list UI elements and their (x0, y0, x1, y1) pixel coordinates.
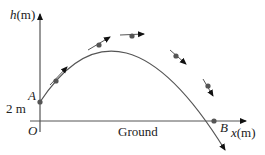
y-axis-label: h(m) (10, 8, 35, 21)
point-a-label: A (28, 89, 36, 102)
point-a (37, 99, 42, 104)
origin-label: O (28, 124, 37, 137)
trajectory-point (173, 53, 178, 58)
trajectory-point (129, 33, 134, 38)
ground-label: Ground (118, 125, 158, 138)
trajectory-point (96, 42, 101, 47)
start-height-label: 2 m (6, 102, 26, 115)
x-axis-label: x(m) (231, 126, 256, 139)
x-axis-unit: (m) (237, 125, 256, 140)
trajectory-point (53, 78, 58, 83)
trajectory-point (205, 83, 210, 88)
y-axis-unit: (m) (17, 7, 36, 22)
point-b-label: B (220, 121, 228, 134)
velocity-arrow-icon (50, 67, 67, 85)
point-b (211, 118, 216, 123)
